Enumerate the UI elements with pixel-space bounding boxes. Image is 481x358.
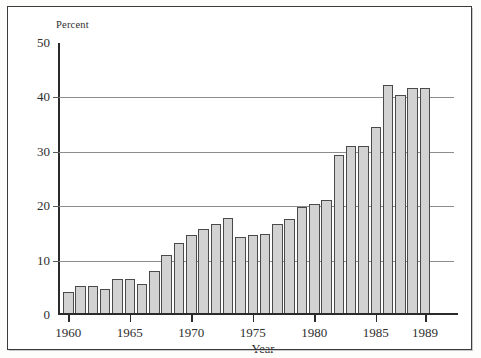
bar-1962 xyxy=(88,286,99,313)
x-tick-1975 xyxy=(253,315,255,322)
x-axis-line xyxy=(58,313,458,315)
x-tick-label-1989: 1989 xyxy=(400,325,450,341)
bar-1967 xyxy=(149,271,160,313)
y-tick-label-40: 40 xyxy=(16,90,50,103)
x-tick-1989 xyxy=(425,315,427,322)
y-tick-20 xyxy=(53,206,59,207)
bar-1987 xyxy=(395,95,406,313)
x-axis-title: Year xyxy=(223,342,303,357)
plot-area: Percent 50403020100 19601965197019751980… xyxy=(58,37,458,319)
y-tick-label-50: 50 xyxy=(16,36,50,49)
bar-1977 xyxy=(272,224,283,313)
x-tick-1970 xyxy=(191,315,193,322)
x-tick-1960 xyxy=(68,315,70,322)
y-tick-label-20: 20 xyxy=(16,199,50,212)
bar-1979 xyxy=(297,207,308,313)
bar-1986 xyxy=(383,85,394,313)
x-tick-1965 xyxy=(130,315,132,322)
y-axis-line xyxy=(58,43,60,315)
y-tick-40 xyxy=(53,97,59,98)
bar-1964 xyxy=(112,279,123,313)
bar-1983 xyxy=(346,146,357,313)
bar-1989 xyxy=(420,88,431,313)
bar-1960 xyxy=(63,292,74,313)
x-tick-label-1975: 1975 xyxy=(228,325,278,341)
y-tick-30 xyxy=(53,152,59,153)
x-tick-label-1970: 1970 xyxy=(166,325,216,341)
y-axis-title: Percent xyxy=(56,19,89,30)
bar-1976 xyxy=(260,234,271,313)
bar-1982 xyxy=(334,155,345,313)
bar-1969 xyxy=(174,243,185,313)
x-tick-label-1965: 1965 xyxy=(105,325,155,341)
bar-1968 xyxy=(161,255,172,313)
bar-1972 xyxy=(211,224,222,313)
bar-1988 xyxy=(407,88,418,313)
chart-figure: Percent 50403020100 19601965197019751980… xyxy=(0,0,481,358)
bar-1973 xyxy=(223,218,234,313)
y-tick-10 xyxy=(53,261,59,262)
bar-1970 xyxy=(186,235,197,313)
bar-1978 xyxy=(284,219,295,313)
bar-1966 xyxy=(137,284,148,313)
bar-1963 xyxy=(100,289,111,313)
y-tick-label-30: 30 xyxy=(16,145,50,158)
x-tick-label-1960: 1960 xyxy=(43,325,93,341)
bar-1981 xyxy=(321,200,332,313)
x-tick-1985 xyxy=(376,315,378,322)
y-tick-label-10: 10 xyxy=(16,254,50,267)
bar-1984 xyxy=(358,146,369,313)
bar-1961 xyxy=(75,286,86,313)
x-tick-1980 xyxy=(314,315,316,322)
y-tick-label-0: 0 xyxy=(16,308,50,321)
x-tick-label-1980: 1980 xyxy=(289,325,339,341)
bar-1965 xyxy=(125,279,136,313)
figure-frame: Percent 50403020100 19601965197019751980… xyxy=(7,6,472,350)
x-tick-label-1985: 1985 xyxy=(351,325,401,341)
bar-1985 xyxy=(371,127,382,313)
bar-1975 xyxy=(248,235,259,313)
bar-1974 xyxy=(235,237,246,313)
bar-1971 xyxy=(198,229,209,313)
bar-1980 xyxy=(309,204,320,313)
